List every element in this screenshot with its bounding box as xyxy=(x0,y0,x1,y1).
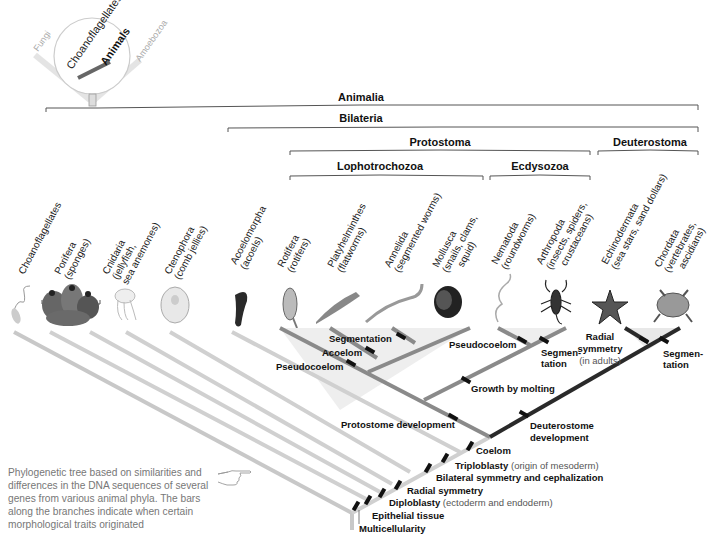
clade-deuterostoma: Deuterostoma xyxy=(613,136,688,148)
jellyfish-icon xyxy=(115,289,136,320)
trait-deuterostome-development: Deuterostome xyxy=(530,420,594,431)
trait-coelom: Coelom xyxy=(476,445,511,456)
trait-deuterostome-development-2: development xyxy=(530,432,589,443)
acoel-icon xyxy=(235,292,247,327)
inset-label-fungi: Fungi xyxy=(31,29,52,53)
trait-epithelial-tissue: Epithelial tissue xyxy=(372,510,444,521)
sponge-icon xyxy=(42,284,99,326)
clade-animalia: Animalia xyxy=(338,91,385,103)
clade-bilateria: Bilateria xyxy=(339,112,383,124)
annelida-icon xyxy=(366,284,422,322)
frog-icon xyxy=(654,290,692,322)
trait-radial-symmetry: Radial symmetry xyxy=(407,485,484,496)
trait-protostome-development: Protostome development xyxy=(341,419,456,430)
trait-triploblasty: Triploblasty (origin of mesoderm) xyxy=(455,460,599,471)
phylogenetic-tree-diagram: Fungi Choanoflagellates Animals Amoebozo… xyxy=(0,0,713,545)
trait-radial-adults: Radial xyxy=(586,331,615,342)
arthropod-icon xyxy=(541,280,571,324)
animal-illustrations xyxy=(10,274,692,328)
mollusc-icon xyxy=(434,286,462,318)
inset-magnifier: Fungi Choanoflagellates Animals Amoebozo… xyxy=(31,0,169,106)
trait-segmentation-lopho: Segmentation xyxy=(329,333,392,344)
flatworm-icon xyxy=(316,292,360,324)
trait-diploblasty: Diploblasty (ectoderm and endoderm) xyxy=(389,497,553,508)
sea-star-icon xyxy=(592,290,628,324)
trait-radial-adults-2: symmetry xyxy=(578,343,624,354)
rotifer-icon xyxy=(283,288,297,328)
trait-acoelom: Acoelom xyxy=(322,347,362,358)
trait-segmentation-chordata: Segmen- xyxy=(663,348,703,359)
trait-pseudocoelom-nematoda: Pseudocoelom xyxy=(449,339,517,350)
trait-segmentation-chordata-2: tation xyxy=(663,359,689,370)
trait-growth-by-molting: Growth by molting xyxy=(471,383,555,394)
trait-multicellularity: Multicellularity xyxy=(359,523,426,534)
clade-lophotrochozoa: Lophotrochozoa xyxy=(337,160,424,172)
choanoflagellate-icon xyxy=(14,286,30,310)
figure-caption: Phylogenetic tree based on similarities … xyxy=(8,466,223,531)
trait-segmentation-arthropoda-2: tation xyxy=(541,358,567,369)
trait-segmentation-arthropoda: Segmen- xyxy=(541,347,581,358)
trait-radial-adults-3: (in adults) xyxy=(579,355,621,366)
taxon-labels: Choanoflagellates Porifera(sponges) Cnid… xyxy=(16,167,707,287)
clade-ecdysozoa: Ecdysozoa xyxy=(511,160,569,172)
clade-brackets xyxy=(42,105,698,308)
nematode-icon xyxy=(496,274,511,322)
inset-label-amoebozoa: Amoebozoa xyxy=(133,18,169,63)
comb-jelly-icon xyxy=(161,287,189,323)
clade-protostoma: Protostoma xyxy=(409,136,471,148)
trait-bilateral-symmetry: Bilateral symmetry and cephalization xyxy=(436,472,604,483)
trait-pseudocoelom-rotifera: Pseudocoelom xyxy=(276,361,344,372)
